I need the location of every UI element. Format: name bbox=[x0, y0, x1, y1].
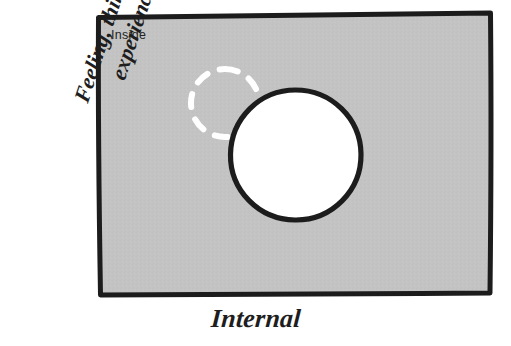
figure-root: Inside Internal Feeling, thinking, exper… bbox=[0, 0, 511, 346]
solid-circle bbox=[230, 90, 361, 220]
x-axis-label-text: Internal bbox=[210, 306, 302, 332]
diagram-canvas bbox=[0, 0, 511, 346]
x-axis-label: Internal bbox=[0, 306, 511, 332]
